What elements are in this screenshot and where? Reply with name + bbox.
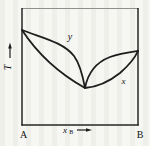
- x-axis-right-arrow-icon: [77, 128, 92, 132]
- phase-diagram-plot: T x B A B y x: [0, 0, 150, 146]
- left-endpoint-label: A: [20, 129, 28, 140]
- x-axis-label-base: x: [62, 125, 67, 135]
- x-axis-label-subscript: B: [69, 129, 73, 135]
- phase-diagram-figure: T x B A B y x: [0, 0, 150, 146]
- y-axis-up-arrow-icon: [8, 43, 12, 59]
- liquid-curve-label: x: [121, 76, 126, 86]
- y-axis-label: T: [3, 64, 13, 70]
- vapor-curve-label: y: [67, 31, 73, 42]
- x-axis-label: x B: [62, 125, 73, 136]
- right-endpoint-label: B: [137, 129, 144, 140]
